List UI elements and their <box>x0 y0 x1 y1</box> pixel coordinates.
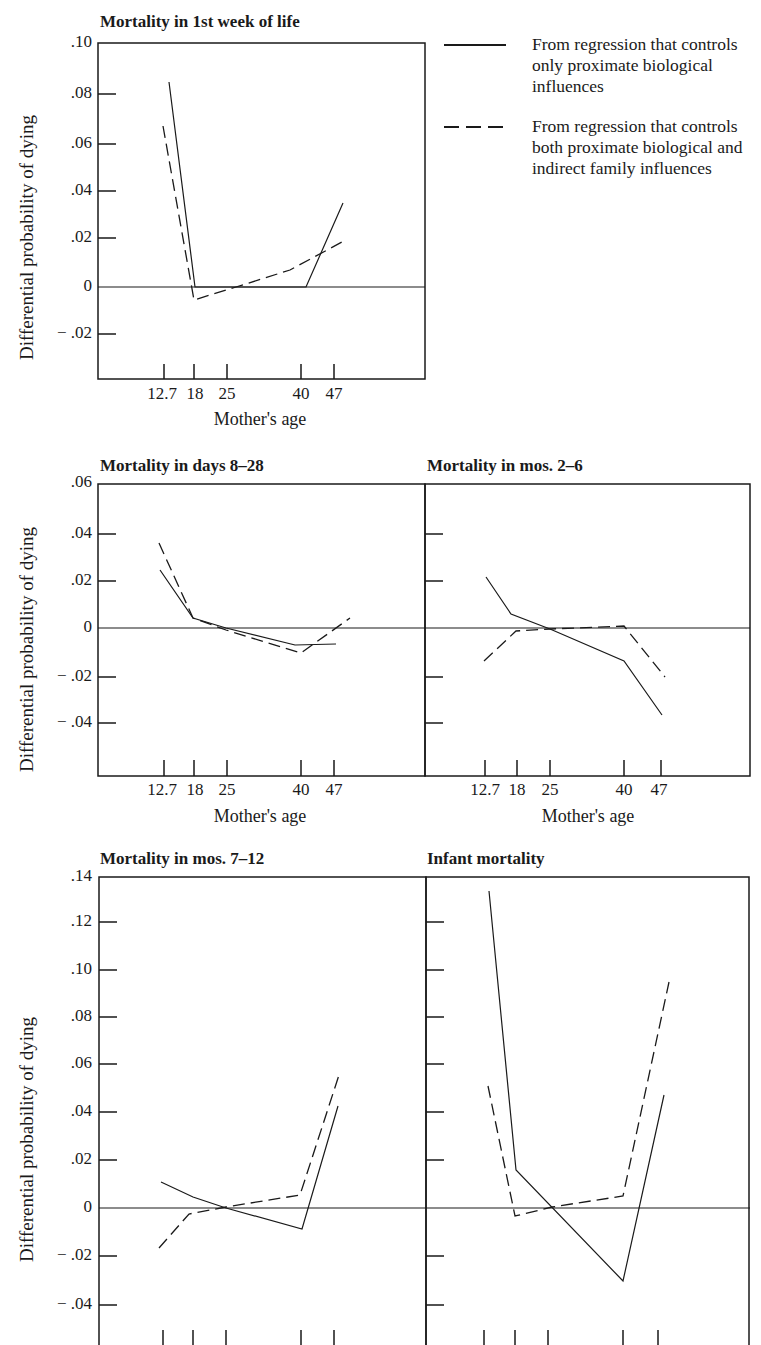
series-solid <box>489 891 664 1281</box>
y-ticks <box>426 922 444 1305</box>
series-dashed <box>484 626 665 677</box>
y-ticks <box>98 94 116 334</box>
panel-2-frame <box>98 484 425 776</box>
series-solid <box>486 577 662 715</box>
panel-1-frame <box>98 43 425 379</box>
x-ticks <box>484 1330 658 1345</box>
series-solid <box>160 570 336 645</box>
plot-area <box>0 0 761 1345</box>
x-ticks <box>485 760 661 776</box>
x-ticks <box>164 364 334 379</box>
series-solid <box>161 1106 338 1229</box>
x-ticks <box>164 760 334 776</box>
panel-3-frame <box>425 484 750 776</box>
x-ticks <box>163 1330 334 1345</box>
series-dashed <box>159 1075 339 1248</box>
panel-5-frame <box>426 877 749 1345</box>
panel-4-frame <box>99 877 426 1345</box>
series-dashed <box>488 982 669 1216</box>
series-dashed <box>163 126 342 300</box>
series-dashed <box>159 543 350 653</box>
y-ticks <box>99 922 117 1305</box>
